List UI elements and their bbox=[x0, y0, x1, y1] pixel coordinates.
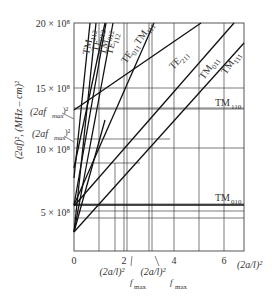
svg-text:max: max bbox=[134, 283, 147, 291]
y-axis-title: (2af)², (MHz – cm)² bbox=[13, 80, 25, 159]
svg-text:(2af: (2af bbox=[32, 128, 49, 140]
fmax-x-right: (2a/l)² f max bbox=[140, 256, 187, 291]
x-axis-title: (2a/l)² bbox=[237, 259, 263, 271]
svg-text:TM: TM bbox=[215, 97, 230, 108]
svg-text:)²: )² bbox=[65, 128, 71, 137]
svg-text:(2af: (2af bbox=[30, 106, 47, 118]
svg-text:010: 010 bbox=[231, 198, 242, 206]
y-tick-20: 20 × 10⁸ bbox=[36, 18, 71, 29]
svg-text:(2a/l)²: (2a/l)² bbox=[140, 266, 166, 278]
svg-text:max: max bbox=[175, 283, 188, 291]
svg-text:TM: TM bbox=[215, 192, 230, 203]
x-tick-0: 0 bbox=[72, 255, 77, 266]
label-te211: TE 211 bbox=[167, 48, 193, 74]
x-tick-6: 6 bbox=[222, 255, 227, 266]
y-tick-5: 5 × 10⁸ bbox=[41, 207, 71, 218]
label-tm111: TM 111 bbox=[219, 49, 245, 78]
fmax-y-lower: (2af max )² bbox=[32, 128, 74, 142]
chart: 20 × 10⁸ 15 × 10⁸ 10 × 10⁸ 5 × 10⁸ (2af)… bbox=[0, 0, 272, 301]
y-tick-15: 15 × 10⁸ bbox=[36, 83, 71, 94]
x-tick-4: 4 bbox=[172, 255, 177, 266]
svg-text:110: 110 bbox=[231, 103, 242, 111]
fmax-y-upper: (2af max )² bbox=[30, 106, 74, 120]
y-tick-10: 10 × 10⁸ bbox=[36, 144, 71, 155]
svg-text:(2a/l)²: (2a/l)² bbox=[99, 266, 125, 278]
svg-text:f: f bbox=[170, 277, 174, 287]
x-tick-2: 2 bbox=[122, 255, 127, 266]
